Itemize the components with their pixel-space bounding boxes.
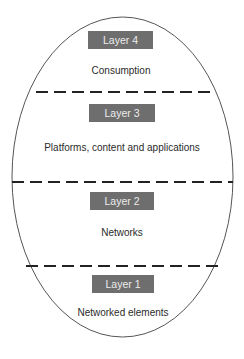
layer-3-label: Layer 3 — [104, 107, 139, 119]
layer-1-description: Networked elements — [77, 307, 168, 318]
layer-2-description: Networks — [101, 227, 143, 238]
layer-4-label: Layer 4 — [103, 34, 138, 46]
layer-3-description: Platforms, content and applications — [44, 142, 200, 153]
layer-2-label: Layer 2 — [104, 195, 139, 207]
layer-4-description: Consumption — [92, 65, 151, 76]
layer-1-label: Layer 1 — [105, 278, 140, 290]
layer-diagram: Layer 4 Consumption Layer 3 Platforms, c… — [0, 0, 244, 359]
